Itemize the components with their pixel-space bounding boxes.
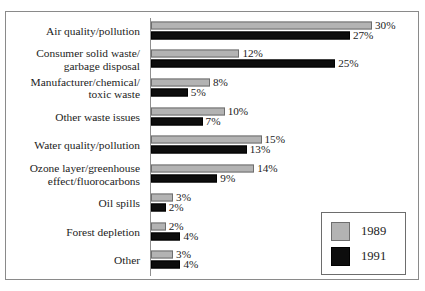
chart-row: Air quality/pollution30%27% [6, 16, 418, 45]
category-label: Manufacturer/chemical/ toxic waste [0, 76, 140, 101]
bar-value-label: 8% [210, 77, 228, 88]
category-label: Oil spills [0, 197, 140, 209]
bar-value-label: 2% [166, 202, 184, 213]
chart-row: Consumer solid waste/ garbage disposal12… [6, 45, 418, 74]
category-label: Consumer solid waste/ garbage disposal [0, 47, 140, 72]
bar-value-label: 27% [350, 29, 374, 40]
bar-wrapper: 9% [151, 175, 418, 183]
bar-value-label: 10% [225, 105, 249, 116]
bar-wrapper: 27% [151, 31, 418, 39]
legend-item-1989: 1989 [331, 222, 386, 241]
bar-group: 10%7% [151, 107, 418, 126]
bar-value-label: 13% [247, 144, 271, 155]
chart-row: Manufacturer/chemical/ toxic waste8%5% [6, 73, 418, 102]
chart-title-text: Environmental Concerns [22, 0, 211, 5]
bar-wrapper: 30% [151, 21, 418, 29]
bar-wrapper: 5% [151, 89, 418, 97]
legend-label-1989: 1989 [361, 224, 386, 239]
bar-wrapper: 15% [151, 136, 418, 144]
bar-1989 [151, 222, 166, 230]
bar-group: 14%9% [151, 165, 418, 184]
category-label: Forest depletion [0, 225, 140, 237]
bar-value-label: 25% [335, 58, 359, 69]
bar-value-label: 4% [180, 230, 198, 241]
bar-1991 [151, 117, 203, 125]
legend-label-1991: 1991 [361, 249, 386, 264]
chart-legend: 1989 1991 [321, 212, 406, 275]
chart-row: Other waste issues10%7% [6, 102, 418, 131]
bar-wrapper: 10% [151, 107, 418, 115]
bar-1989 [151, 165, 254, 173]
bar-group: 30%27% [151, 21, 418, 40]
bar-group: 3%2% [151, 193, 418, 212]
legend-swatch-1991-icon [331, 247, 350, 266]
bar-1989 [151, 136, 262, 144]
bar-value-label: 5% [188, 87, 206, 98]
bar-group: 8%5% [151, 79, 418, 98]
bar-wrapper: 2% [151, 203, 418, 211]
bar-1991 [151, 60, 335, 68]
bar-value-label: 4% [180, 259, 198, 270]
bar-1991 [151, 232, 180, 240]
category-label: Other waste issues [0, 111, 140, 123]
bar-wrapper: 14% [151, 165, 418, 173]
bar-1989 [151, 50, 239, 58]
bar-1991 [151, 89, 188, 97]
bar-1991 [151, 31, 350, 39]
chart-row: Water quality/pollution15%13% [6, 131, 418, 160]
bar-1991 [151, 146, 247, 154]
bar-wrapper: 7% [151, 117, 418, 125]
bar-wrapper: 12% [151, 50, 418, 58]
legend-swatch-1989-icon [331, 222, 350, 241]
category-label: Air quality/pollution [0, 24, 140, 36]
chart-row: Ozone layer/greenhouse effect/fluorocarb… [6, 160, 418, 189]
bar-1991 [151, 203, 166, 211]
bar-group: 15%13% [151, 136, 418, 155]
bar-group: 12%25% [151, 50, 418, 69]
legend-item-1991: 1991 [331, 247, 386, 266]
cropped-title-remnant: Environmental Concerns [0, 0, 425, 11]
bar-1991 [151, 261, 180, 269]
bar-value-label: 9% [217, 173, 235, 184]
bar-1991 [151, 175, 217, 183]
bar-1989 [151, 21, 372, 29]
bar-wrapper: 13% [151, 146, 418, 154]
category-label: Water quality/pollution [0, 139, 140, 151]
category-label: Other [0, 254, 140, 266]
bar-wrapper: 3% [151, 193, 418, 201]
bar-value-label: 30% [372, 19, 396, 30]
bar-value-label: 7% [203, 115, 221, 126]
bar-value-label: 12% [239, 48, 263, 59]
bar-value-label: 14% [254, 163, 278, 174]
bar-wrapper: 25% [151, 60, 418, 68]
category-label: Ozone layer/greenhouse effect/fluorocarb… [0, 162, 140, 187]
chart-frame: Air quality/pollution30%27%Consumer soli… [5, 11, 419, 280]
bar-1989 [151, 251, 173, 259]
